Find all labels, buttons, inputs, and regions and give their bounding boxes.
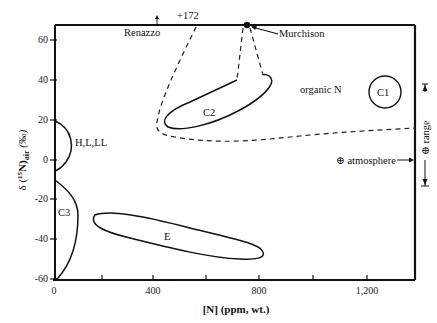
c2-field <box>164 74 271 128</box>
x-tick-400: 400 <box>146 285 161 296</box>
y-title-unit: (‰) <box>16 129 29 150</box>
range-down-arrowhead <box>423 179 428 185</box>
svg-text:δ (15N)air (‰): δ (15N)air (‰) <box>16 129 31 190</box>
y-tick-60: 60 <box>38 34 48 45</box>
renazzo-label: Renazzo <box>124 27 160 38</box>
e-field <box>93 213 263 259</box>
y-title-sub: air <box>22 150 31 160</box>
y-tick-40: 40 <box>38 74 48 85</box>
range-label-group: ⊕ range <box>420 120 431 155</box>
murchison-point <box>244 22 250 28</box>
y-title-delta: δ ( <box>16 179 29 191</box>
hlll-label: H,L,LL <box>75 137 107 148</box>
range-up-arrowhead <box>423 85 428 91</box>
y-tick-m20: -20 <box>35 193 48 204</box>
y-tick-m60: -60 <box>35 273 48 284</box>
x-axis-labels: 0 400 800 1,200 <box>52 285 379 296</box>
e-label: E <box>164 231 170 242</box>
atmosphere-arrowhead <box>409 158 414 163</box>
y-title-n: N) <box>16 160 29 172</box>
atmosphere-label: ⊕ atmosphere <box>336 155 396 166</box>
renazzo-value-label: +172 <box>177 10 199 21</box>
range-label: ⊕ range <box>420 120 431 155</box>
organic-n-dashed-boundary <box>157 27 414 141</box>
y-tick-20: 20 <box>38 114 48 125</box>
murchison-dashed-right <box>250 28 263 75</box>
organic-n-label: organic N <box>300 84 342 95</box>
plot-frame <box>53 25 415 280</box>
c2-label: C2 <box>203 107 215 118</box>
y-axis-title: δ (15N)air (‰) <box>16 129 31 190</box>
hlll-field <box>55 121 71 171</box>
y-tick-0: 0 <box>43 154 48 165</box>
x-tick-800: 800 <box>252 285 267 296</box>
renazzo-arrow-up-icon <box>155 15 159 19</box>
x-tick-0: 0 <box>52 285 57 296</box>
c3-field <box>55 180 78 280</box>
murchison-label: Murchison <box>279 28 325 39</box>
y-tick-m40: -40 <box>35 233 48 244</box>
c1-label: C1 <box>377 87 389 98</box>
murchison-dashed-left <box>237 28 243 80</box>
c3-label: C3 <box>58 207 70 218</box>
x-axis-title: [N] (ppm, wt.) <box>203 303 270 316</box>
x-tick-1200: 1,200 <box>356 285 379 296</box>
y-axis-labels: 60 40 20 0 -20 -40 -60 <box>35 34 48 284</box>
isotope-chart: 60 40 20 0 -20 -40 -60 0 400 800 1,200 [… <box>0 0 437 323</box>
